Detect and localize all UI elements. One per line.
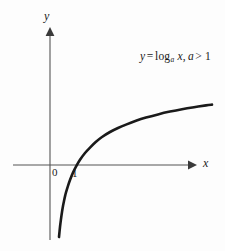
y-axis-arrowhead bbox=[46, 27, 55, 36]
x-axis-label: x bbox=[203, 157, 208, 169]
equation-log-base: a bbox=[170, 55, 174, 64]
logarithmic-curve bbox=[59, 105, 212, 237]
tick-label-one: 1 bbox=[72, 168, 78, 179]
x-axis-arrowhead bbox=[188, 161, 197, 170]
equation-condition-variable: a bbox=[188, 50, 194, 62]
logarithm-graph-figure: y x 0 1 y=loga x,a>1 bbox=[0, 0, 225, 251]
equation-condition-operator: > bbox=[194, 50, 204, 62]
equation-condition-value: 1 bbox=[204, 50, 213, 62]
equation-log-function: log bbox=[155, 50, 170, 62]
equation-equals-sign: = bbox=[145, 50, 155, 62]
y-axis-label: y bbox=[44, 10, 49, 22]
graph-canvas bbox=[0, 0, 225, 251]
curve-group bbox=[59, 105, 212, 237]
equation-annotation: y=loga x,a>1 bbox=[140, 51, 213, 64]
tick-label-origin: 0 bbox=[52, 167, 58, 178]
